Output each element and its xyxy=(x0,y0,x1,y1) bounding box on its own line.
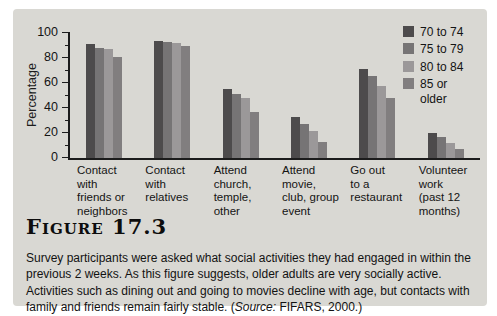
bar xyxy=(291,117,300,158)
bar xyxy=(428,133,437,158)
y-axis-major-tick xyxy=(62,132,70,133)
y-axis-title: Percentage xyxy=(25,63,39,127)
bar xyxy=(154,41,163,159)
legend-item: 85 or older xyxy=(403,77,476,106)
legend-label: 85 or older xyxy=(420,77,476,106)
legend-swatch xyxy=(403,61,414,72)
x-axis-category-label: Go out to a restaurant xyxy=(350,164,410,205)
y-axis-tick-label: 100 xyxy=(22,25,58,39)
legend-item: 70 to 74 xyxy=(403,25,476,39)
bar xyxy=(95,48,104,158)
bar-group xyxy=(70,33,138,158)
x-axis-category-label: Attend church, temple, other xyxy=(214,164,274,218)
bar xyxy=(86,44,95,158)
y-axis-major-tick xyxy=(62,82,70,83)
figure-label: Figure 17.3 xyxy=(26,214,167,239)
bar xyxy=(172,43,181,158)
y-axis-tick-label: 80 xyxy=(22,50,58,64)
caption-source-label: Source: xyxy=(235,300,276,314)
bar xyxy=(241,98,250,158)
bar xyxy=(104,49,113,158)
y-axis-tick-label: 0 xyxy=(22,150,58,164)
bar xyxy=(232,94,241,158)
x-axis-category-label: Contact with friends or neighbors xyxy=(77,164,137,218)
legend-label: 80 to 84 xyxy=(420,60,476,74)
legend-swatch xyxy=(403,78,414,89)
y-axis-tick-label: 60 xyxy=(22,75,58,89)
bar xyxy=(223,89,232,158)
legend: 70 to 7475 to 7980 to 8485 or older xyxy=(403,25,476,106)
bar xyxy=(309,131,318,159)
bar xyxy=(437,137,446,158)
x-axis-category-label: Attend movie, club, group event xyxy=(282,164,342,218)
caption-source-rest: FIFARS, 2000.) xyxy=(276,300,362,314)
y-axis-tick-label: 40 xyxy=(22,100,58,114)
bar xyxy=(446,143,455,158)
y-axis-tick-label: 20 xyxy=(22,125,58,139)
bar-group xyxy=(207,33,275,158)
bar-chart: Percentage 020406080100Contact with frie… xyxy=(13,9,487,214)
legend-item: 80 to 84 xyxy=(403,60,476,74)
legend-label: 75 to 79 xyxy=(420,42,476,56)
x-axis-category-label: Volunteer work (past 12 months) xyxy=(419,164,479,218)
y-axis-major-tick xyxy=(62,157,70,158)
bar xyxy=(368,76,377,159)
legend-item: 75 to 79 xyxy=(403,42,476,56)
legend-label: 70 to 74 xyxy=(420,25,476,39)
x-axis-category-label: Contact with relatives xyxy=(145,164,205,205)
figure-caption: Survey participants were asked what soci… xyxy=(26,250,478,315)
bar-group xyxy=(275,33,343,158)
bar xyxy=(386,98,395,158)
figure-panel: Percentage 020406080100Contact with frie… xyxy=(13,9,487,306)
bar xyxy=(455,149,464,158)
y-axis-major-tick xyxy=(62,57,70,58)
bar xyxy=(113,57,122,158)
legend-swatch xyxy=(403,26,414,37)
bar xyxy=(318,142,327,158)
bar-group xyxy=(343,33,411,158)
bar xyxy=(377,86,386,159)
bar xyxy=(181,46,190,159)
y-axis-major-tick xyxy=(62,107,70,108)
bar-group xyxy=(138,33,206,158)
bar xyxy=(250,112,259,158)
y-axis-major-tick xyxy=(62,32,70,33)
bar xyxy=(300,124,309,158)
bar xyxy=(163,42,172,158)
bar xyxy=(359,69,368,158)
legend-swatch xyxy=(403,43,414,54)
